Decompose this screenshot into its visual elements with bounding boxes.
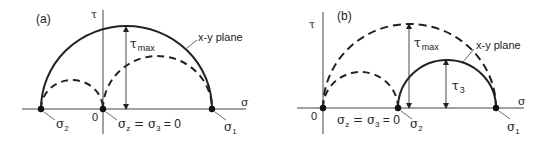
xy-plane-circle [398, 60, 496, 108]
sigma1-leader [215, 112, 226, 120]
mohr-circle-diagram: (a) τ σ 0 τmax x-y plane σ2 σ1 σz = σ3 =… [0, 0, 550, 142]
sigma1-label: σ1 [507, 120, 520, 136]
tau-max-label: τmax [414, 36, 439, 52]
sigma1-label: σ1 [224, 120, 237, 136]
panel-a: (a) τ σ 0 τmax x-y plane σ2 σ1 σz = σ3 =… [22, 8, 249, 136]
tau3-label: τ3 [452, 79, 465, 95]
tau-max-label: τmax [130, 37, 155, 53]
sigmaz-leader [106, 112, 117, 120]
plane-leader [463, 49, 474, 62]
panel-label: (a) [36, 12, 51, 26]
tau-axis-label: τ [91, 8, 97, 21]
sigma1-leader [499, 111, 510, 119]
tau-axis-label: τ [309, 18, 315, 31]
sigma2-label: σ2 [410, 117, 423, 133]
sigma2-point [38, 106, 44, 112]
xy-plane-circle [41, 26, 212, 109]
origin-point [320, 105, 326, 111]
sigmaz-sigma3-label: σz = σ3 = 0 [337, 113, 400, 129]
plane-leader [187, 40, 197, 48]
xy-plane-label: x-y plane [198, 31, 243, 43]
xy-plane-label: x-y plane [476, 39, 521, 51]
sigma1-point [209, 106, 215, 112]
origin-label: 0 [311, 110, 317, 122]
dashed-circle-right [103, 56, 212, 109]
origin-label: 0 [92, 111, 98, 123]
dashed-circle-left [41, 80, 103, 109]
sigma2-point [395, 105, 401, 111]
sigma1-point [493, 105, 499, 111]
sigma2-leader [44, 112, 55, 120]
sigmaz-sigma3-label: σz = σ3 = 0 [118, 117, 181, 133]
dashed-circle-small [323, 72, 398, 108]
sigma-axis-label: σ [241, 96, 249, 109]
sigma-axis-label: σ [518, 95, 526, 108]
panel-label: (b) [337, 9, 352, 23]
origin-point [100, 106, 106, 112]
sigma2-label: σ2 [56, 117, 69, 133]
panel-b: (b) τ σ 0 τmax τ3 x-y plane σ2 σ1 σz = σ… [297, 9, 526, 136]
